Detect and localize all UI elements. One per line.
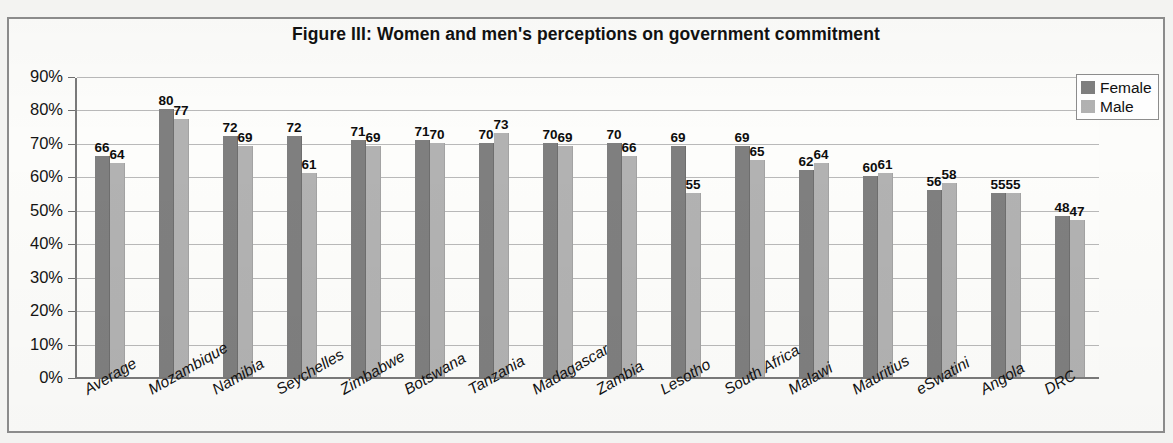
bar-female: [287, 136, 302, 377]
y-axis-tick-mark: [68, 311, 75, 312]
bar-female: [479, 143, 494, 377]
bar-male: [1006, 193, 1021, 377]
bar-male: [750, 160, 765, 377]
y-axis-tick-mark: [68, 211, 75, 212]
bar-male: [814, 163, 829, 377]
bar-value-label: 55: [680, 177, 706, 192]
legend-swatch-male-icon: [1081, 100, 1095, 113]
bar-female: [607, 143, 622, 377]
bar-female: [863, 176, 878, 377]
y-axis-tick-mark: [68, 378, 75, 379]
y-axis-tick-label: 10%: [9, 335, 63, 354]
y-axis-tick-mark: [68, 110, 75, 111]
bar-female: [95, 156, 110, 377]
bar-group: 6965: [735, 78, 765, 377]
bar-group: 8077: [159, 78, 189, 377]
bar-female: [351, 140, 366, 377]
y-axis-tick-label: 80%: [9, 100, 63, 119]
scanned-page: Figure III: Women and men's perceptions …: [0, 0, 1173, 443]
legend-item-male: Male: [1081, 97, 1152, 116]
bar-female: [543, 143, 558, 377]
bar-group: 7169: [351, 78, 381, 377]
bar-group: 7069: [543, 78, 573, 377]
bar-female: [991, 193, 1006, 377]
bar-value-label: 72: [281, 120, 307, 135]
y-axis-tick-label: 90%: [9, 67, 63, 86]
bar-female: [927, 190, 942, 377]
bar-group: 7170: [415, 78, 445, 377]
plot-area: 6664807772697261716971707073706970666955…: [75, 78, 1099, 379]
bar-male: [302, 173, 317, 377]
y-axis-tick-mark: [68, 345, 75, 346]
bar-group: 7261: [287, 78, 317, 377]
bar-value-label: 69: [665, 130, 691, 145]
bar-value-label: 65: [744, 144, 770, 159]
bar-value-label: 61: [872, 157, 898, 172]
bar-male: [110, 163, 125, 377]
bar-female: [223, 136, 238, 377]
bar-value-label: 69: [552, 130, 578, 145]
bar-female: [1055, 216, 1070, 377]
bar-value-label: 64: [808, 147, 834, 162]
bar-value-label: 55: [1000, 177, 1026, 192]
y-axis-tick-label: 50%: [9, 201, 63, 220]
bar-value-label: 70: [424, 127, 450, 142]
bar-male: [494, 133, 509, 377]
bar-male: [430, 143, 445, 377]
bar-male: [622, 156, 637, 377]
bar-male: [878, 173, 893, 377]
y-axis-tick-label: 20%: [9, 301, 63, 320]
bar-group: 7066: [607, 78, 637, 377]
figure-frame: Figure III: Women and men's perceptions …: [7, 17, 1165, 433]
chart-legend: Female Male: [1076, 74, 1159, 120]
bar-female: [735, 146, 750, 377]
bar-male: [366, 146, 381, 377]
bar-male: [1070, 220, 1085, 377]
bar-group: 6955: [671, 78, 701, 377]
y-axis-tick-label: 40%: [9, 234, 63, 253]
y-axis-tick-mark: [68, 177, 75, 178]
bar-value-label: 77: [168, 103, 194, 118]
bar-female: [799, 170, 814, 377]
bar-value-label: 69: [232, 130, 258, 145]
y-axis-tick-label: 0%: [9, 368, 63, 387]
bar-male: [238, 146, 253, 377]
bar-value-label: 61: [296, 157, 322, 172]
bar-group: 6664: [95, 78, 125, 377]
bar-group: 6061: [863, 78, 893, 377]
bar-group: 5555: [991, 78, 1021, 377]
chart-title: Figure III: Women and men's perceptions …: [9, 24, 1163, 45]
bar-value-label: 58: [936, 167, 962, 182]
bar-value-label: 73: [488, 117, 514, 132]
bar-group: 6264: [799, 78, 829, 377]
bar-value-label: 66: [616, 140, 642, 155]
bar-male: [686, 193, 701, 377]
y-axis-tick-mark: [68, 144, 75, 145]
bar-female: [415, 140, 430, 377]
y-axis-tick-label: 70%: [9, 134, 63, 153]
bar-value-label: 69: [360, 130, 386, 145]
bar-female: [159, 109, 174, 377]
bar-value-label: 64: [104, 147, 130, 162]
bar-male: [558, 146, 573, 377]
y-axis-tick-label: 60%: [9, 167, 63, 186]
y-axis-tick-mark: [68, 278, 75, 279]
y-axis-tick-label: 30%: [9, 268, 63, 287]
bar-male: [174, 119, 189, 377]
legend-label-female: Female: [1100, 79, 1152, 97]
legend-item-female: Female: [1081, 78, 1152, 97]
y-axis-tick-mark: [68, 77, 75, 78]
bar-group: 4847: [1055, 78, 1085, 377]
legend-swatch-female-icon: [1081, 81, 1095, 94]
bar-male: [942, 183, 957, 377]
bar-group: 5658: [927, 78, 957, 377]
bar-value-label: 47: [1064, 204, 1090, 219]
bar-group: 7269: [223, 78, 253, 377]
y-axis-tick-mark: [68, 244, 75, 245]
bar-group: 7073: [479, 78, 509, 377]
legend-label-male: Male: [1100, 98, 1134, 116]
